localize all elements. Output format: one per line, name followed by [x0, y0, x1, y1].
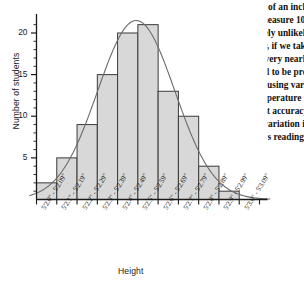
y-tick-label: 10: [12, 110, 28, 120]
y-axis-title: Number of students: [11, 31, 21, 151]
histogram-svg: [0, 0, 304, 281]
histogram-chart: Number of students Height 5101520 5'2.0"…: [0, 0, 304, 281]
y-tick-label: 5: [12, 152, 28, 162]
figure-page: The silly instrument only measures to th…: [0, 0, 304, 281]
y-tick-label: 15: [12, 69, 28, 79]
x-axis-title: Height: [118, 266, 143, 276]
y-tick-label: 20: [12, 27, 28, 37]
